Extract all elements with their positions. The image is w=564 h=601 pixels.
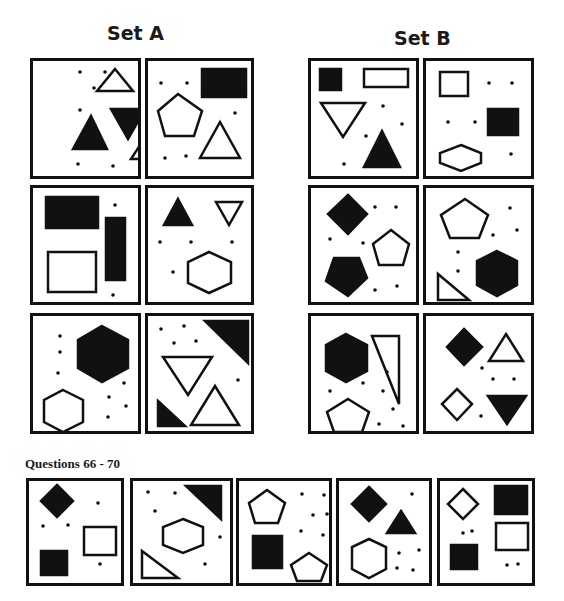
outline-triangle-shape: [142, 551, 178, 578]
dot: [456, 269, 460, 273]
question-panel-3[interactable]: [236, 478, 332, 586]
question-panel-4[interactable]: [336, 478, 432, 586]
dot: [394, 205, 398, 209]
dot: [96, 501, 100, 505]
outline-rectangle-shape: [440, 72, 468, 96]
outline-hexagon-shape: [188, 252, 231, 293]
outline-rectangle-shape: [496, 523, 528, 550]
dot: [510, 81, 514, 85]
dot: [58, 350, 62, 354]
set-b-panel-2: [423, 58, 534, 179]
dot: [491, 377, 495, 381]
dot: [479, 414, 483, 418]
dot: [328, 389, 332, 393]
filled-hexagon-shape: [477, 251, 517, 296]
puzzle-page: Set A Set B Questions 66 - 70: [0, 0, 564, 601]
dot: [321, 533, 325, 537]
outline-diamond-shape: [448, 489, 478, 519]
filled-diamond-shape: [41, 485, 73, 517]
question-panel-5[interactable]: [437, 478, 535, 586]
outline-triangle-shape: [216, 202, 242, 225]
filled-triangle-shape: [387, 511, 415, 533]
dot: [185, 81, 189, 85]
dot: [236, 378, 240, 382]
dot: [58, 334, 62, 338]
outline-triangle-shape: [97, 69, 133, 91]
dot: [233, 111, 237, 115]
dot: [397, 551, 401, 555]
dot: [189, 240, 193, 244]
filled-triangle-shape: [164, 199, 192, 225]
outline-rectangle-shape: [364, 69, 408, 87]
outline-triangle-shape: [321, 103, 365, 137]
dot: [480, 366, 484, 370]
outline-triangle-shape: [191, 386, 239, 425]
dot: [56, 371, 60, 375]
dot: [381, 104, 385, 108]
dot: [159, 327, 163, 331]
filled-rectangle-shape: [451, 545, 477, 569]
dot: [159, 81, 163, 85]
set-b-panel-3: [308, 185, 419, 305]
outline-rectangle-shape: [48, 252, 96, 292]
dot: [391, 407, 395, 411]
dot: [328, 237, 332, 241]
set-a-panel-3: [30, 185, 141, 305]
set-a-panel-4: [145, 185, 254, 305]
dot: [487, 81, 491, 85]
dot: [395, 284, 399, 288]
set-b-panel-4: [423, 185, 534, 305]
outline-triangle-shape: [489, 334, 523, 361]
set-b-panel-5: [308, 313, 419, 434]
outline-hexagon-shape: [440, 145, 481, 171]
set-a-panel-6: [145, 313, 254, 434]
dot: [411, 568, 415, 572]
set-a-panel-2: [145, 58, 254, 179]
outline-triangle-shape: [372, 336, 399, 404]
dot: [361, 381, 365, 385]
filled-diamond-shape: [447, 329, 482, 365]
dot: [106, 415, 110, 419]
dot: [491, 233, 495, 237]
outline-rectangle-shape: [84, 527, 116, 555]
outline-pentagon-shape: [249, 490, 285, 523]
outline-triangle-shape: [131, 133, 138, 159]
dot: [124, 404, 128, 408]
dot: [203, 562, 207, 566]
dot: [373, 288, 377, 292]
dot: [470, 529, 474, 533]
filled-triangle-shape: [364, 131, 400, 167]
outline-hexagon-shape: [352, 539, 386, 578]
outline-pentagon-shape: [158, 94, 202, 136]
filled-hexagon-shape: [326, 334, 367, 382]
dot: [78, 70, 82, 74]
dot: [76, 162, 80, 166]
dot: [218, 535, 222, 539]
filled-rectangle-shape: [253, 536, 282, 568]
set-a-panel-1: [30, 58, 141, 179]
dot: [300, 492, 304, 496]
outline-pentagon-shape: [441, 199, 488, 238]
dot: [311, 513, 315, 517]
dot: [92, 86, 96, 90]
dot: [182, 324, 186, 328]
dot: [417, 548, 421, 552]
outline-pentagon-shape: [373, 230, 409, 265]
question-panel-1[interactable]: [26, 478, 124, 586]
outline-hexagon-shape: [44, 390, 83, 431]
dot: [342, 162, 346, 166]
dot: [473, 120, 477, 124]
dot: [230, 240, 234, 244]
set-b-title: Set B: [394, 27, 451, 49]
filled-diamond-shape: [352, 487, 386, 521]
dot: [153, 509, 157, 513]
dot: [509, 152, 513, 156]
question-panel-2[interactable]: [130, 478, 233, 586]
dot: [446, 120, 450, 124]
filled-rectangle-shape: [495, 486, 527, 514]
dot: [158, 240, 162, 244]
dot: [515, 228, 519, 232]
dot: [113, 203, 117, 207]
dot: [98, 562, 102, 566]
dot: [163, 156, 167, 160]
